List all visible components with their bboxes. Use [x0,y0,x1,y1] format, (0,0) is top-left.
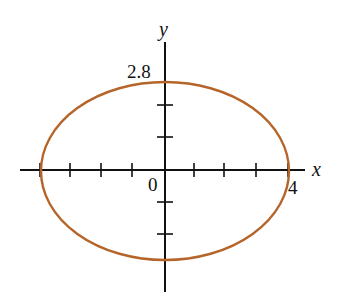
ellipse-diagram: y x 2.8 0 4 [0,0,340,303]
y-axis-label: y [157,18,168,41]
origin-label: 0 [148,174,158,195]
y-intercept-label: 2.8 [127,61,151,82]
x-axis-label: x [311,158,321,180]
x-intercept-label: 4 [288,177,298,198]
